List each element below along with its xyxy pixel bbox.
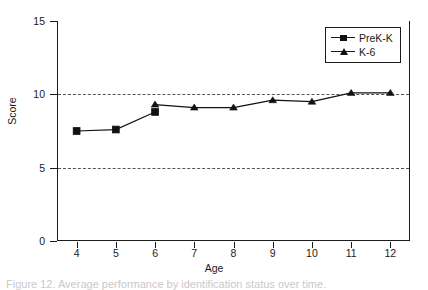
gridline-y-5 <box>58 168 409 169</box>
x-tick-label-8: 8 <box>221 247 247 259</box>
x-tick-mark-5 <box>116 242 117 248</box>
x-tick-label-9: 9 <box>260 247 286 259</box>
x-tick-mark-12 <box>390 242 391 248</box>
x-tick-mark-11 <box>351 242 352 248</box>
y-axis: 051015 <box>0 0 57 241</box>
x-tick-label-4: 4 <box>64 247 90 259</box>
legend: PreK-KK-6 <box>325 27 401 63</box>
x-axis: 456789101112 <box>0 242 428 262</box>
x-axis-title: Age <box>0 262 428 274</box>
x-tick-label-10: 10 <box>299 247 325 259</box>
y-tick-mark-15 <box>50 21 57 22</box>
x-tick-mark-8 <box>234 242 235 248</box>
x-tick-label-12: 12 <box>377 247 403 259</box>
y-tick-label-15: 15 <box>33 16 45 26</box>
x-tick-label-11: 11 <box>338 247 364 259</box>
y-tick-mark-5 <box>50 168 57 169</box>
x-tick-mark-9 <box>273 242 274 248</box>
y-tick-label-5: 5 <box>39 163 45 173</box>
figure-caption: Figure 12. Average performance by identi… <box>6 278 426 290</box>
triangle-marker-icon <box>331 46 355 58</box>
x-tick-label-5: 5 <box>103 247 129 259</box>
x-tick-mark-10 <box>312 242 313 248</box>
gridline-y-10 <box>58 94 409 95</box>
legend-label: PreK-K <box>359 32 393 44</box>
y-tick-label-10: 10 <box>33 89 45 99</box>
x-tick-mark-7 <box>194 242 195 248</box>
x-tick-label-7: 7 <box>181 247 207 259</box>
x-tick-mark-4 <box>77 242 78 248</box>
x-tick-label-6: 6 <box>142 247 168 259</box>
legend-item-k-6[interactable]: K-6 <box>331 45 393 59</box>
square-marker-icon <box>331 32 355 44</box>
legend-label: K-6 <box>359 46 375 58</box>
legend-item-prek-k[interactable]: PreK-K <box>331 31 393 45</box>
y-tick-mark-10 <box>50 94 57 95</box>
x-tick-mark-6 <box>155 242 156 248</box>
